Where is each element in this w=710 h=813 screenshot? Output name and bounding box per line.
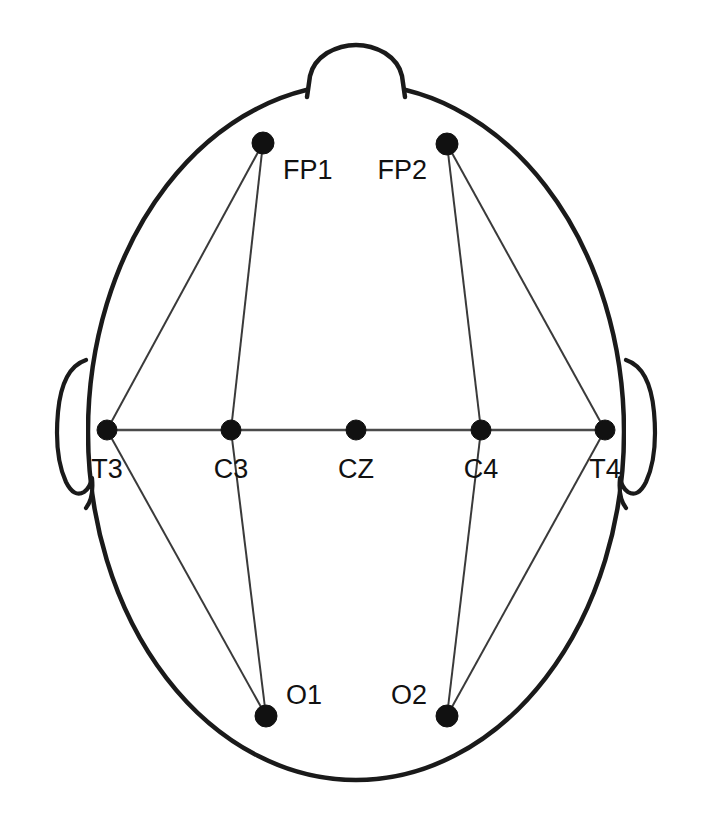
electrode-dot-fp1[interactable] [252,132,274,154]
electrode-dot-o1[interactable] [255,705,277,727]
electrode-label-c4: C4 [464,454,499,484]
electrode-label-t4: T4 [589,454,621,484]
electrode-label-t3: T3 [91,454,123,484]
eeg-electrode-diagram: FP1FP2T3C3CZC4T4O1O2 [0,0,710,813]
electrode-label-cz: CZ [338,454,374,484]
electrode-dot-t4[interactable] [595,420,615,440]
electrode-label-o1: O1 [286,680,322,710]
electrode-label-o2: O2 [391,680,427,710]
electrode-dot-fp2[interactable] [436,133,458,155]
electrode-label-fp2: FP2 [377,155,427,185]
head-group [57,45,655,780]
electrode-dot-c3[interactable] [221,420,241,440]
eeg-head-map-svg: FP1FP2T3C3CZC4T4O1O2 [0,0,710,813]
electrode-dot-cz[interactable] [346,420,366,440]
electrode-dot-o2[interactable] [436,705,458,727]
electrode-dot-t3[interactable] [97,420,117,440]
electrode-dot-c4[interactable] [471,420,491,440]
electrode-label-c3: C3 [214,454,249,484]
electrode-label-fp1: FP1 [283,155,333,185]
nose-icon [307,45,405,97]
